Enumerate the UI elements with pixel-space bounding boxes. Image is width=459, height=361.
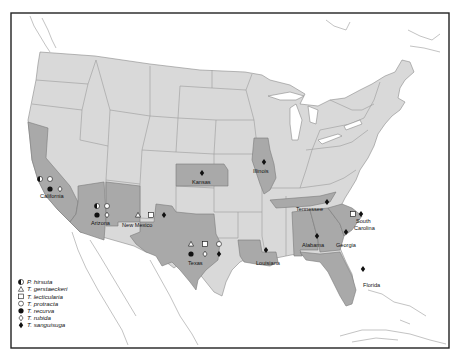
label-arizona: Arizona [91,220,111,226]
marker-california-hirsuta [37,176,42,181]
legend-label-gerstaeckeri: T. gerstaeckeri [27,285,68,292]
legend-label-sanguisuga: T. sanguisuga [27,321,66,328]
legend-symbol-lecticularia [19,294,24,299]
marker-texas-recurva [188,251,193,256]
legend-label-lecticularia: T. lecticularia [27,293,63,300]
marker-new-mexico-lecticularia [149,213,154,218]
legend-label-protracta: T. protracta [27,300,59,307]
marker-texas-protracta [217,242,222,247]
label-florida: Florida [363,282,381,288]
legend-symbol-recurva [18,308,23,313]
legend-symbol-hirsuta [18,279,23,284]
label-california: California [40,193,65,199]
us-species-map: California Arizona New Mexico Texas Kans… [0,0,459,361]
legend-symbol-protracta [19,301,24,306]
marker-arizona-protracta [105,204,110,209]
label-tennessee: Tennessee [296,206,323,212]
label-kansas: Kansas [192,179,211,185]
marker-california-recurva [47,186,52,191]
label-illinois: Illinois [253,168,269,174]
legend-label-recurva: T. recurva [27,307,55,314]
marker-arizona-recurva [94,212,99,217]
marker-south-carolina-lecticularia [351,212,356,217]
label-georgia: Georgia [336,242,357,248]
label-south-carolina-1: South [356,218,371,224]
label-louisiana: Louisiana [256,260,281,266]
state-new-mexico [106,182,140,226]
label-alabama: Alabama [302,242,325,248]
legend-label-hirsuta: P. hirsuta [27,278,53,285]
label-new-mexico: New Mexico [122,222,152,228]
marker-texas-lecticularia [203,242,208,247]
label-south-carolina-2: Carolina [354,225,376,231]
marker-california-protracta [48,177,53,182]
marker-arizona-hirsuta [94,203,99,208]
legend-label-rubida: T. rubida [27,314,51,321]
label-texas: Texas [188,260,203,266]
